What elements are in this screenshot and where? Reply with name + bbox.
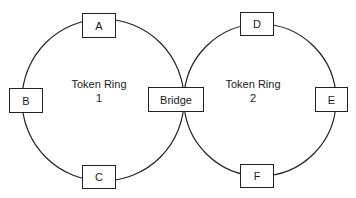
ring-1-number: 1 [59, 91, 139, 105]
ring-2-number: 2 [213, 91, 293, 105]
ring-2-title: Token Ring [213, 77, 293, 91]
ring-2-label: Token Ring 2 [213, 77, 293, 105]
node-b: B [9, 88, 43, 113]
token-ring-diagram: Token Ring 1 Token Ring 2 A B C Bridge D… [0, 0, 356, 198]
node-f: F [240, 164, 274, 188]
ring-1-label: Token Ring 1 [59, 77, 139, 105]
node-d: D [240, 12, 274, 36]
node-c: C [82, 165, 116, 189]
bridge-node: Bridge [148, 87, 204, 112]
node-e: E [315, 87, 348, 112]
ring-1-title: Token Ring [59, 77, 139, 91]
node-a: A [82, 13, 116, 38]
